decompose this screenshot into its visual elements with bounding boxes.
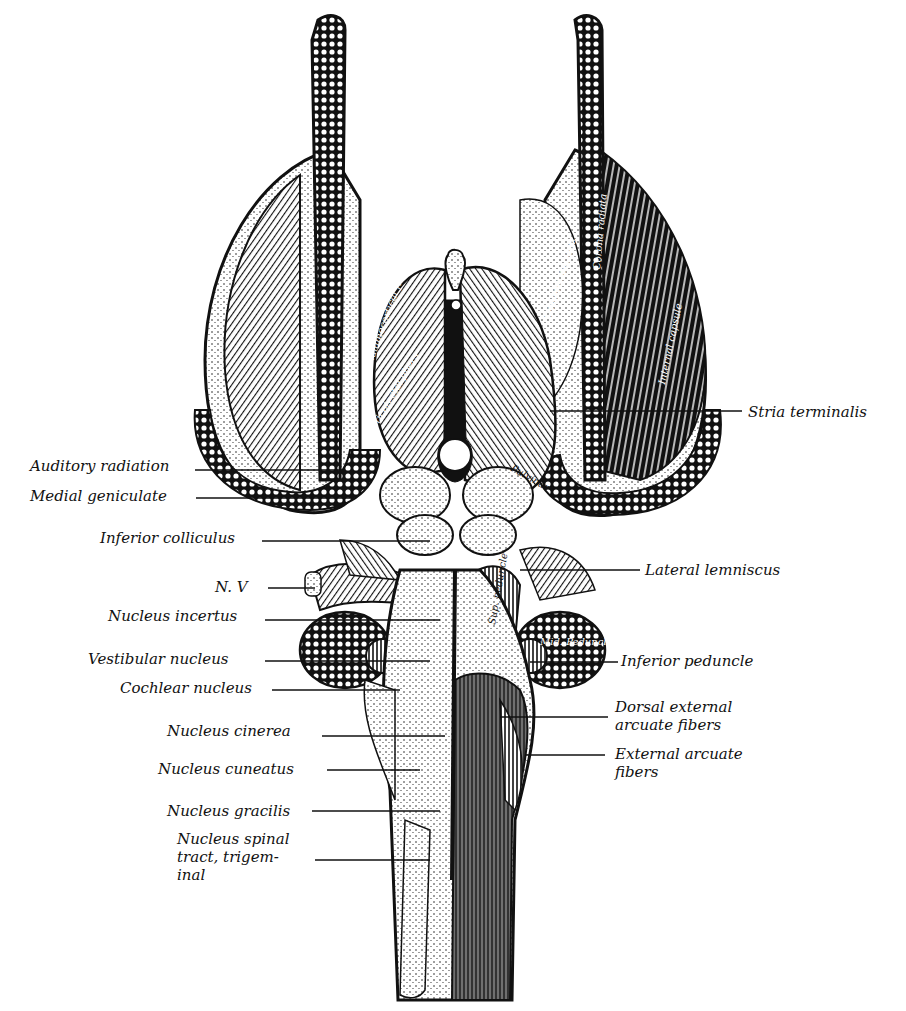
label-lateral-lemniscus: Lateral lemniscus xyxy=(645,561,780,579)
label-nucleus-incertus: Nucleus incertus xyxy=(108,607,237,625)
label-nucleus-gracilis: Nucleus gracilis xyxy=(167,802,290,820)
label-dorsal-external-arcuate-fibers: Dorsal external arcuate fibers xyxy=(615,698,732,734)
label-vestibular-nucleus: Vestibular nucleus xyxy=(88,650,229,668)
label-external-arcuate-fibers: External arcuate fibers xyxy=(615,745,743,781)
label-auditory-radiation: Auditory radiation xyxy=(30,457,169,475)
medulla xyxy=(364,570,534,1000)
label-n-v: N. V xyxy=(215,578,248,596)
left-hemisphere xyxy=(195,16,380,513)
label-nucleus-cuneatus: Nucleus cuneatus xyxy=(158,760,294,778)
label-inferior-peduncle: Inferior peduncle xyxy=(621,652,753,670)
inner-label-mid-peduncle: Mid. Peduncle xyxy=(539,636,612,647)
label-stria-terminalis: Stria terminalis xyxy=(748,403,867,421)
label-nucleus-spinal-tract-trigeminal: Nucleus spinal tract, trigem- inal xyxy=(177,830,290,884)
label-nucleus-cinerea: Nucleus cinerea xyxy=(167,722,291,740)
brainstem-illustration: Caudate nucleus Corona radiata Internal … xyxy=(0,0,906,1011)
label-inferior-colliculus: Inferior colliculus xyxy=(100,529,235,547)
label-cochlear-nucleus: Cochlear nucleus xyxy=(120,679,252,697)
label-medial-geniculate: Medial geniculate xyxy=(30,487,167,505)
